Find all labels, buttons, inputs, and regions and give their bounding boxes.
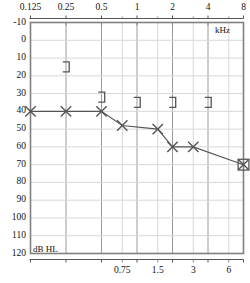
y-axis-tick-label: 10 — [0, 53, 26, 63]
y-axis-tick-label: 60 — [0, 142, 26, 152]
x-axis-tick-label-bottom: 6 — [226, 266, 231, 276]
y-axis-tick-label: 70 — [0, 160, 26, 170]
x-axis-tick-label-top: 4 — [206, 3, 211, 13]
y-axis-tick-label: -10 — [0, 18, 26, 28]
frequency-unit-label: kHz — [215, 26, 230, 35]
y-axis-tick-label: 80 — [0, 178, 26, 188]
y-axis-tick-label: 120 — [0, 249, 26, 259]
y-axis-tick-label: 20 — [0, 71, 26, 81]
x-axis-tick-label-bottom: 0.75 — [114, 266, 131, 276]
level-unit-label: dB HL — [33, 245, 58, 254]
x-axis-tick-label-top: 0.5 — [96, 3, 108, 13]
y-axis-tick-label: 30 — [0, 89, 26, 99]
audiogram-chart: 0.1250.250.512480.751.536-10010203040506… — [0, 0, 250, 283]
x-axis-tick-label-top: 1 — [135, 3, 140, 13]
y-axis-tick-label: 100 — [0, 213, 26, 223]
x-axis-tick-label-top: 0.25 — [58, 3, 75, 13]
audiogram-plot — [0, 0, 250, 283]
grid-major-vertical — [31, 23, 244, 254]
y-axis-tick-label: 50 — [0, 124, 26, 134]
x-axis-tick-label-bottom: 1.5 — [152, 266, 164, 276]
grid-minor-vertical — [122, 23, 229, 254]
x-axis-tick-label-top: 0.125 — [20, 3, 41, 13]
y-axis-tick-label: 90 — [0, 195, 26, 205]
y-axis-tick-label: 40 — [0, 107, 26, 117]
x-axis-tick-label-top: 2 — [170, 3, 175, 13]
y-axis-tick-label: 0 — [0, 36, 26, 46]
y-axis-tick-label: 110 — [0, 231, 26, 241]
x-axis-tick-label-bottom: 3 — [191, 266, 196, 276]
x-axis-tick-label-top: 8 — [241, 3, 246, 13]
